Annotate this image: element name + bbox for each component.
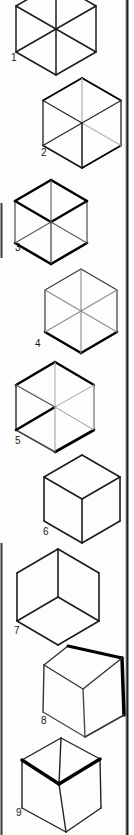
page-background: [0, 0, 134, 835]
figure-9-edge-UR-LR: [100, 759, 101, 808]
figure-4-number-label: 4: [35, 338, 41, 349]
figure-1-number-label: 1: [11, 52, 17, 63]
figure-8-edge-UL-LL: [43, 665, 44, 712]
figure-9-number-label: 9: [16, 807, 22, 818]
cube-series-canvas: 123456789: [0, 0, 134, 835]
figure-2-number-label: 2: [41, 147, 47, 158]
figure-page: 123456789: [0, 0, 134, 835]
figure-6-number-label: 6: [43, 526, 49, 537]
figure-8-number-label: 8: [41, 715, 47, 726]
figure-5-number-label: 5: [15, 435, 21, 446]
figure-7-number-label: 7: [14, 625, 20, 636]
figure-8-edge-UR-LR: [122, 658, 124, 715]
figure-3-number-label: 3: [15, 242, 21, 253]
